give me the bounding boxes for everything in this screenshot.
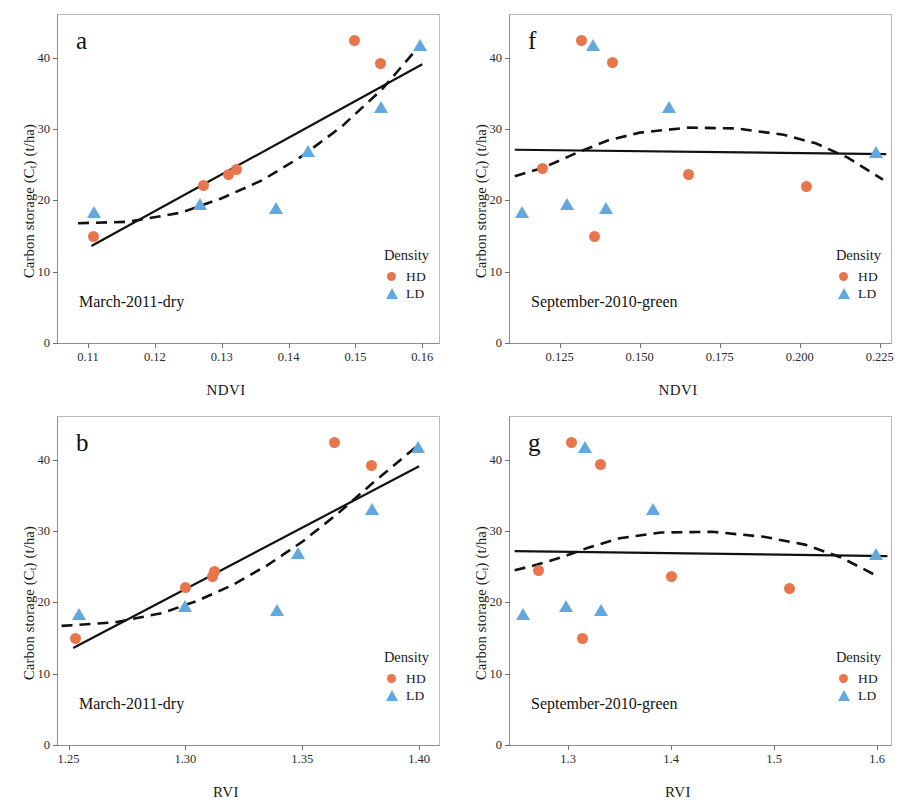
legend-marker-shape xyxy=(838,690,850,701)
x-tick-label: 0.15 xyxy=(345,350,367,365)
y-tick xyxy=(53,343,58,344)
x-tick xyxy=(88,343,89,348)
x-axis-label: RVI xyxy=(0,784,452,801)
season-caption: March‑2011‑dry xyxy=(79,293,184,311)
y-tick xyxy=(505,343,510,344)
legend-circle-icon xyxy=(383,672,401,686)
x-tick xyxy=(720,343,721,348)
x-tick-label: 0.125 xyxy=(546,350,574,365)
panel-g: Carbon storage (Ct) (t/ha)1.31.41.51.601… xyxy=(452,402,904,804)
legend-item-ld[interactable]: LD xyxy=(835,285,881,302)
figure-panel-grid: Carbon storage (Ct) (t/ha)0.110.120.130.… xyxy=(0,0,904,804)
x-axis-label: RVI xyxy=(452,784,904,801)
legend-title: Density xyxy=(383,247,429,264)
legend-item-label: LD xyxy=(858,688,877,704)
x-axis-label: NDVI xyxy=(0,382,452,399)
x-tick-label: 1.35 xyxy=(291,752,313,767)
legend-marker-shape xyxy=(387,674,396,683)
legend-title: Density xyxy=(835,247,881,264)
x-tick xyxy=(155,343,156,348)
legend-item-hd[interactable]: HD xyxy=(835,670,881,687)
y-axis-label: Carbon storage (Ct) (t/ha) xyxy=(473,76,490,326)
y-tick-label: 20 xyxy=(38,595,51,610)
y-axis-label-wrap: Carbon storage (Ct) (t/ha) xyxy=(0,0,34,402)
x-tick-label: 0.14 xyxy=(278,350,300,365)
x-axis-label: NDVI xyxy=(452,382,904,399)
y-tick-label: 20 xyxy=(490,595,503,610)
legend-item-label: HD xyxy=(406,671,426,687)
legend-title: Density xyxy=(835,649,881,666)
y-axis-label: Carbon storage (Ct) (t/ha) xyxy=(21,478,38,728)
legend-marker-shape xyxy=(387,272,396,281)
legend-marker-shape xyxy=(839,674,848,683)
legend-item-label: LD xyxy=(858,286,877,302)
legend-triangle-icon xyxy=(383,287,401,301)
y-tick-label: 0 xyxy=(44,738,50,753)
x-tick xyxy=(880,343,881,348)
y-axis-label-subscript: t xyxy=(480,567,490,570)
legend-marker-shape xyxy=(838,288,850,299)
x-tick-label: 0.13 xyxy=(211,350,233,365)
panel-letter: b xyxy=(76,429,89,457)
y-tick-label: 0 xyxy=(44,336,50,351)
x-tick-label: 1.5 xyxy=(766,752,782,767)
y-tick-label: 40 xyxy=(490,50,503,65)
season-caption: September‑2010‑green xyxy=(531,293,678,311)
legend-item-label: LD xyxy=(406,688,425,704)
y-tick-label: 30 xyxy=(490,122,503,137)
y-tick-label: 40 xyxy=(38,50,51,65)
x-tick xyxy=(640,343,641,348)
legend-triangle-icon xyxy=(835,689,853,703)
plot-area-b: 1.251.301.351.40010203040bMarch‑2011‑dry… xyxy=(57,416,440,746)
legend-item-ld[interactable]: LD xyxy=(835,687,881,704)
y-tick-label: 10 xyxy=(490,264,503,279)
x-tick-label: 0.150 xyxy=(626,350,654,365)
legend-item-hd[interactable]: HD xyxy=(383,670,429,687)
y-axis-label-wrap: Carbon storage (Ct) (t/ha) xyxy=(452,0,486,402)
panel-a: Carbon storage (Ct) (t/ha)0.110.120.130.… xyxy=(0,0,452,402)
legend-circle-icon xyxy=(383,270,401,284)
x-tick xyxy=(419,745,420,750)
y-axis-label-subscript: t xyxy=(28,567,38,570)
x-tick xyxy=(800,343,801,348)
y-tick-label: 40 xyxy=(490,452,503,467)
fit-line-quadratic xyxy=(62,446,417,626)
x-tick-label: 1.6 xyxy=(869,752,885,767)
y-tick-label: 10 xyxy=(38,264,51,279)
y-tick-label: 0 xyxy=(496,738,502,753)
panel-letter: a xyxy=(76,27,87,55)
legend-marker-shape xyxy=(386,690,398,701)
plot-area-f: 0.1250.1500.1750.2000.225010203040fSepte… xyxy=(509,14,892,344)
legend-item-ld[interactable]: LD xyxy=(383,687,429,704)
x-tick-label: 0.200 xyxy=(786,350,814,365)
x-tick-label: 1.25 xyxy=(58,752,80,767)
y-tick-label: 30 xyxy=(38,524,51,539)
y-tick-label: 40 xyxy=(38,452,51,467)
y-tick xyxy=(53,745,58,746)
x-tick xyxy=(69,745,70,750)
x-tick xyxy=(355,343,356,348)
y-tick-label: 20 xyxy=(38,193,51,208)
legend-item-hd[interactable]: HD xyxy=(835,268,881,285)
panel-letter: g xyxy=(528,429,541,457)
x-tick xyxy=(222,343,223,348)
legend-item-label: HD xyxy=(858,671,878,687)
y-axis-label-wrap: Carbon storage (Ct) (t/ha) xyxy=(0,402,34,804)
legend-item-hd[interactable]: HD xyxy=(383,268,429,285)
legend: DensityHDLD xyxy=(835,649,881,704)
legend: DensityHDLD xyxy=(835,247,881,302)
legend-title: Density xyxy=(383,649,429,666)
x-tick-label: 0.11 xyxy=(77,350,98,365)
legend-circle-icon xyxy=(835,270,853,284)
y-tick-label: 20 xyxy=(490,193,503,208)
x-tick-label: 0.12 xyxy=(144,350,166,365)
x-tick xyxy=(422,343,423,348)
panel-f: Carbon storage (Ct) (t/ha)0.1250.1500.17… xyxy=(452,0,904,402)
panel-b: Carbon storage (Ct) (t/ha)1.251.301.351.… xyxy=(0,402,452,804)
legend-circle-icon xyxy=(835,672,853,686)
y-tick-label: 10 xyxy=(490,666,503,681)
x-tick-label: 1.40 xyxy=(408,752,430,767)
plot-area-a: 0.110.120.130.140.150.16010203040aMarch‑… xyxy=(57,14,440,344)
legend-item-ld[interactable]: LD xyxy=(383,285,429,302)
plot-area-g: 1.31.41.51.6010203040gSeptember‑2010‑gre… xyxy=(509,416,892,746)
